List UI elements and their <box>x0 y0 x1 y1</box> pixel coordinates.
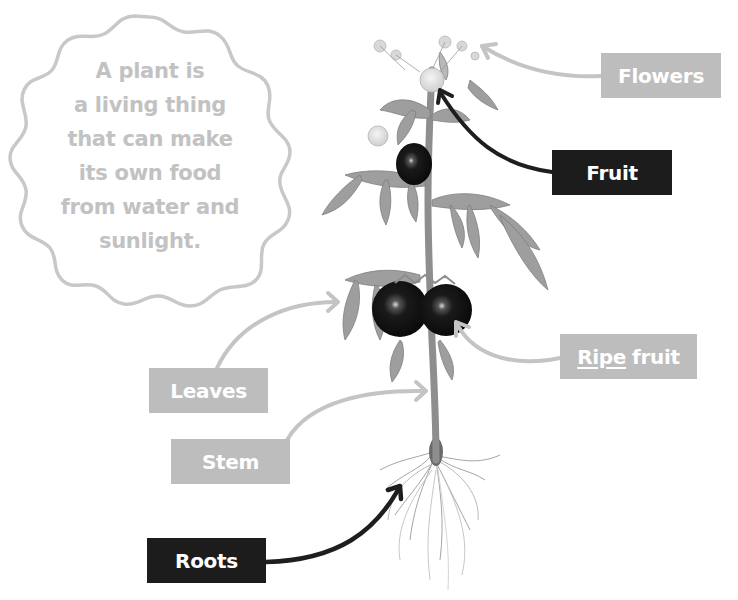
plant-definition-text: A plant is a living thing that can make … <box>30 54 270 258</box>
flowers-illustration <box>374 36 479 72</box>
label-leaves-text: Leaves <box>170 379 247 403</box>
label-fruit: Fruit <box>552 150 672 195</box>
label-leaves: Leaves <box>149 368 268 413</box>
definition-line: a living thing <box>30 88 270 122</box>
definition-line: A plant is <box>30 54 270 88</box>
roots-arrow <box>266 490 398 562</box>
leaves-arrow <box>217 302 336 368</box>
label-stem: Stem <box>171 439 290 484</box>
label-ripe-fruit-text: fruit <box>632 345 680 369</box>
label-ripe-fruit-underlined: Ripe <box>577 345 626 369</box>
label-flowers-text: Flowers <box>618 64 704 88</box>
definition-line: its own food <box>30 156 270 190</box>
label-stem-text: Stem <box>202 450 259 474</box>
roots-illustration <box>380 452 500 590</box>
label-roots-text: Roots <box>175 549 238 573</box>
label-flowers: Flowers <box>601 53 721 98</box>
label-fruit-text: Fruit <box>586 161 637 185</box>
fruit-illustration <box>396 143 432 185</box>
label-roots: Roots <box>147 538 266 583</box>
definition-line: sunlight. <box>30 224 270 258</box>
stem-arrow <box>287 391 424 440</box>
plant-diagram: A plant is a living thing that can make … <box>0 0 738 600</box>
fruit-arrow <box>440 92 552 172</box>
definition-line: from water and <box>30 190 270 224</box>
definition-line: that can make <box>30 122 270 156</box>
main-stem <box>428 70 436 460</box>
label-ripe-fruit: Ripe fruit <box>560 334 697 379</box>
ripe-fruit-arrow <box>458 326 560 361</box>
flowers-arrow <box>482 46 601 76</box>
